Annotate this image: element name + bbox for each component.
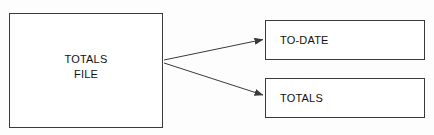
flow-diagram: TOTALS FILE TO-DATE TOTALS [0, 0, 434, 135]
node-totals[interactable]: TOTALS [265, 78, 425, 118]
node-to-date-label: TO-DATE [266, 34, 329, 47]
connector-totals-file-to-totals [164, 63, 263, 95]
node-totals-label: TOTALS [266, 92, 323, 105]
node-to-date[interactable]: TO-DATE [265, 20, 425, 60]
connector-totals-file-to-to-date [164, 40, 263, 61]
node-totals-file[interactable]: TOTALS FILE [9, 13, 163, 128]
node-totals-file-label-line2: FILE [74, 68, 98, 80]
node-totals-file-label: TOTALS FILE [65, 52, 108, 82]
node-totals-file-label-line1: TOTALS [65, 53, 108, 65]
